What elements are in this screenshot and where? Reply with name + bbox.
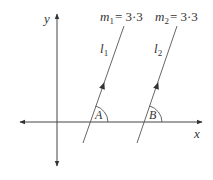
line-label-l2: l2 (154, 41, 162, 58)
angle-label-a: A (94, 108, 103, 122)
angle-label-b: B (149, 108, 157, 122)
line-label-l1: l1 (100, 41, 108, 58)
direction-arrow-l1-icon (99, 81, 107, 90)
y-axis-label: y (42, 11, 50, 26)
slope-label-m1: m1= 3·3 (100, 9, 143, 26)
direction-arrow-l2-icon (153, 81, 161, 90)
x-axis-label: x (193, 126, 200, 141)
parallel-lines-diagram: y x l1 l2 m1= 3·3 m2= 3·3 A B (0, 0, 213, 180)
slope-label-m2: m2= 3·3 (155, 9, 198, 26)
